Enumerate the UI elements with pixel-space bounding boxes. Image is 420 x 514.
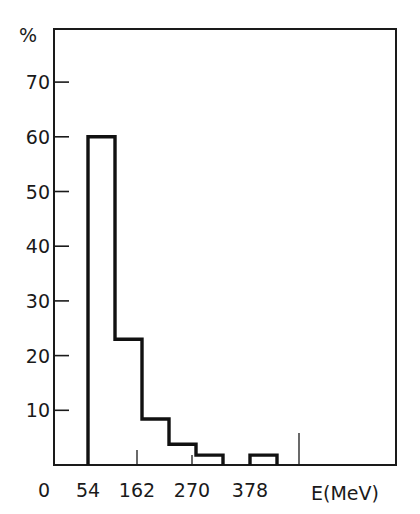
y-tick-label: 50 [26, 181, 50, 203]
x-tick-label: 270 [174, 479, 210, 501]
x-tick-label: 378 [232, 479, 268, 501]
plot-frame [54, 29, 396, 465]
y-axis: 10203040506070 [26, 71, 69, 421]
y-tick-label: 10 [26, 399, 50, 421]
histogram-bars [88, 137, 277, 465]
x-tick-label: 162 [119, 479, 155, 501]
y-tick-label: 60 [26, 126, 50, 148]
histogram-outline [88, 137, 277, 465]
y-tick-label: 40 [26, 235, 50, 257]
y-axis-label: % [19, 24, 37, 46]
y-tick-label: 30 [26, 290, 50, 312]
x-axis-label: E(MeV) [311, 482, 379, 504]
x-tick-label: 0 [38, 479, 50, 501]
x-tick-label: 54 [76, 479, 100, 501]
y-tick-label: 20 [26, 345, 50, 367]
histogram-chart: 10203040506070 054162270378 % E(MeV) [0, 0, 420, 514]
y-tick-label: 70 [26, 71, 50, 93]
